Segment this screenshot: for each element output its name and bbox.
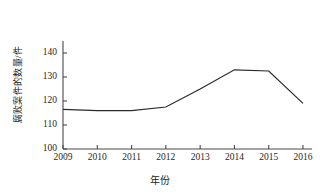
- plot-area: [0, 0, 320, 196]
- data-series-line: [63, 70, 303, 111]
- axis-ticks-group: [63, 53, 303, 149]
- line-chart: 腐败案件的数量/件 年份 100 110 120 130 140 2009 20…: [0, 0, 320, 196]
